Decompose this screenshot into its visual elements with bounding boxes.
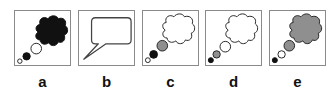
label-d: d xyxy=(205,73,262,90)
bubble-large xyxy=(220,41,231,52)
speech-bubble-icon xyxy=(79,11,134,65)
label-b: b xyxy=(78,73,135,90)
panel-a[interactable] xyxy=(14,10,71,66)
thought-bubble-icon xyxy=(143,11,198,65)
cloud-shape xyxy=(36,16,68,46)
bubble-small xyxy=(272,58,277,63)
label-c: c xyxy=(142,73,199,90)
thought-bubble-icon xyxy=(270,11,325,65)
thought-bubble-icon xyxy=(15,11,70,65)
cloud-shape xyxy=(226,14,258,44)
bubble-large xyxy=(284,40,295,51)
panel-c[interactable] xyxy=(142,10,199,66)
cloud-shape xyxy=(290,14,322,44)
panel-e[interactable] xyxy=(269,10,326,66)
bubble-medium xyxy=(150,51,158,59)
panel-d[interactable] xyxy=(205,10,262,66)
bubble-medium xyxy=(23,53,30,60)
bubble-small xyxy=(145,58,150,63)
bubble-large xyxy=(157,40,168,51)
thought-bubble-icon xyxy=(206,11,261,65)
label-a: a xyxy=(14,73,71,90)
bubble-large xyxy=(31,43,42,54)
bubble-small xyxy=(18,59,22,63)
label-e: e xyxy=(269,73,326,90)
bubble-small xyxy=(208,58,213,63)
panel-b[interactable] xyxy=(78,10,135,66)
speech-shape xyxy=(84,18,131,59)
bubble-medium xyxy=(213,51,220,58)
cloud-shape xyxy=(163,14,195,44)
bubble-medium xyxy=(278,51,285,58)
